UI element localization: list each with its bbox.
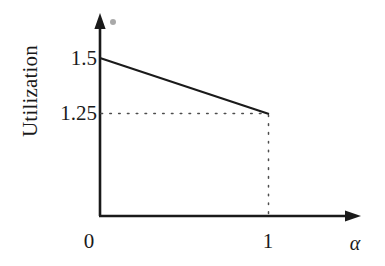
chart-plot-area	[0, 0, 385, 266]
x-axis-arrowhead	[345, 210, 361, 221]
y-tick-label-1-25: 1.25	[60, 103, 97, 124]
y-axis-arrowhead	[94, 13, 105, 29]
x-tick-label-0: 0	[84, 231, 95, 252]
scan-speck-artifact	[110, 19, 116, 25]
y-axis-label: Utilization	[20, 45, 41, 137]
x-axis-label-alpha: α	[350, 233, 361, 253]
utilization-vs-alpha-chart: Utilization 1.5 1.25 0 1 α	[0, 0, 385, 266]
x-tick-label-1: 1	[263, 231, 274, 252]
utilization-data-line	[100, 58, 269, 114]
y-tick-label-1-5: 1.5	[71, 48, 97, 69]
